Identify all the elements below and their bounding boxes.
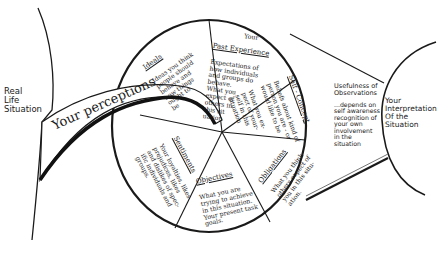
- interpretation-label: Your Interpretation Of the Situation: [385, 97, 437, 129]
- past-experience-title-prefix: Your: [244, 33, 272, 44]
- usefulness-body: ...depends on self awareness recognition…: [334, 102, 380, 148]
- real-life-situation-label: Real Life Situation: [4, 87, 42, 114]
- past-experience-title: Past Experience: [212, 43, 270, 59]
- usefulness-note: Usefulness of Observations ...depends on…: [334, 83, 380, 147]
- usefulness-title: Usefulness of Observations: [334, 83, 380, 97]
